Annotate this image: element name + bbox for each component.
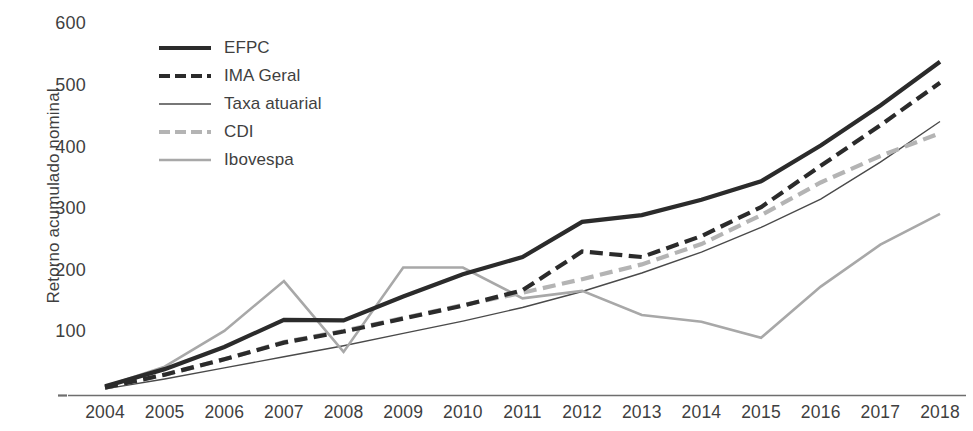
x-axis-tick-2007: 2007 (251, 402, 317, 423)
x-axis-tick-2006: 2006 (191, 402, 257, 423)
line-chart-plot (0, 0, 973, 431)
legend-item-ibovespa: Ibovespa (158, 146, 398, 174)
x-axis-tick-2004: 2004 (72, 402, 138, 423)
x-axis-tick-2008: 2008 (311, 402, 377, 423)
y-axis-tick-200: 200 (22, 260, 86, 281)
legend-swatch-icon (158, 125, 212, 139)
x-axis-tick-2011: 2011 (490, 402, 556, 423)
x-axis-tick-2010: 2010 (430, 402, 496, 423)
x-axis-tick-2013: 2013 (609, 402, 675, 423)
y-axis-tick-300: 300 (22, 198, 86, 219)
legend-item-cdi: CDI (158, 118, 398, 146)
x-axis-tick-2015: 2015 (728, 402, 794, 423)
legend-item-ima-geral: IMA Geral (158, 62, 398, 90)
y-axis-tick-500: 500 (22, 75, 86, 96)
y-axis-tick-100: 100 (22, 321, 86, 342)
x-axis-tick-2009: 2009 (370, 402, 436, 423)
chart-container: Retorno acumulado nominal 10020030040050… (0, 0, 973, 431)
y-axis-tick-600: 600 (22, 13, 86, 34)
legend-item-efpc: EFPC (158, 34, 398, 62)
y-axis-title: Retorno acumulado nominal (44, 56, 64, 336)
series-line-ibovespa (105, 214, 940, 386)
legend-swatch-icon (158, 41, 212, 55)
legend-label: Ibovespa (224, 150, 294, 170)
legend-label: Taxa atuarial (224, 94, 322, 114)
chart-legend: EFPCIMA GeralTaxa atuarialCDIIbovespa (158, 34, 398, 174)
legend-label: EFPC (224, 38, 270, 58)
x-axis-tick-2017: 2017 (847, 402, 913, 423)
x-axis-tick-2018: 2018 (907, 402, 973, 423)
x-axis-tick-2005: 2005 (132, 402, 198, 423)
legend-swatch-icon (158, 69, 212, 83)
legend-label: CDI (224, 122, 254, 142)
legend-item-taxa-atuarial: Taxa atuarial (158, 90, 398, 118)
y-axis-tick-400: 400 (22, 137, 86, 158)
legend-label: IMA Geral (224, 66, 300, 86)
x-axis-tick-2016: 2016 (788, 402, 854, 423)
legend-swatch-icon (158, 97, 212, 111)
x-axis-tick-2012: 2012 (549, 402, 615, 423)
x-axis-tick-2014: 2014 (668, 402, 734, 423)
legend-swatch-icon (158, 153, 212, 167)
